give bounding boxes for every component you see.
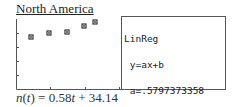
linreg-header: LinReg (124, 35, 204, 44)
data-points (29, 20, 97, 39)
linreg-a: a=.5797373358 (124, 87, 204, 96)
data-point-center (48, 32, 50, 34)
data-point-center (66, 31, 68, 33)
scatter-plot (0, 0, 125, 95)
regression-equation: n(t) = 0.58t + 34.14 (16, 90, 118, 106)
eq-coef: 0.58 (49, 90, 72, 105)
data-point-center (30, 36, 32, 38)
linreg-form: y=ax+b (124, 61, 204, 70)
eq-const: 34.14 (89, 90, 118, 105)
eq-func: n (16, 90, 23, 105)
calculator-screen: LinReg y=ax+b a=.5797373358 b=34.1358349 (121, 16, 226, 90)
data-point-center (94, 21, 96, 23)
eq-var: t (27, 90, 31, 105)
linreg-output: LinReg y=ax+b a=.5797373358 b=34.1358349 (124, 18, 204, 107)
eq-rhs-var: t (71, 90, 75, 105)
data-point-center (83, 25, 85, 27)
